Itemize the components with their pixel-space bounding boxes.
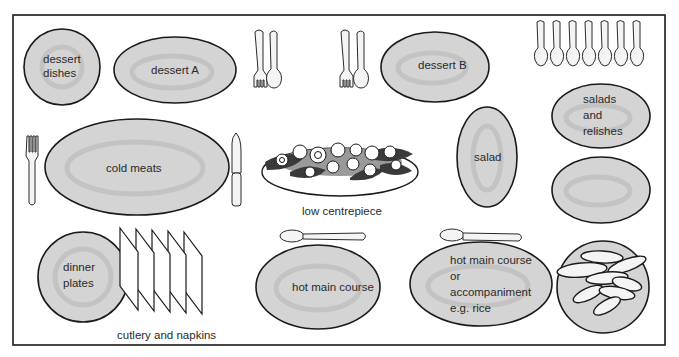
- accompaniment-label-2: or: [450, 270, 460, 282]
- dessert-a-label: dessert A: [151, 64, 199, 76]
- cold-meats-platter: cold meats: [45, 119, 229, 215]
- low-centrepiece-label: low centrepiece: [302, 205, 382, 217]
- buffet-layout-diagram: dessert dishes dessert A dessert B: [0, 0, 679, 357]
- dessert-dishes-label-2: dishes: [43, 67, 76, 79]
- dinner-plates-label-2: plates: [63, 277, 94, 289]
- empty-dish: [552, 157, 650, 223]
- accompaniment-label-3: accompaniment: [450, 286, 532, 298]
- hot-main-course-platter: hot main course: [256, 245, 380, 329]
- hot-main-or-accompaniment-platter: hot main course or accompaniment e.g. ri…: [410, 242, 552, 326]
- dessert-a-platter: dessert A: [114, 37, 236, 103]
- bread-rolls-icon: [556, 241, 649, 333]
- salads-relishes-label-3: relishes: [583, 125, 623, 137]
- hot-main-course-label: hot main course: [292, 281, 374, 293]
- cold-meats-label: cold meats: [106, 162, 162, 174]
- accompaniment-label-4: e.g. rice: [450, 302, 491, 314]
- dessert-b-label: dessert B: [418, 59, 467, 71]
- dessert-dishes-label-1: dessert: [43, 53, 82, 65]
- salad-label: salad: [474, 151, 502, 163]
- cutlery-napkins-label: cutlery and napkins: [117, 329, 216, 341]
- dinner-plates-label-1: dinner: [63, 261, 95, 273]
- salad-bowl: salad: [457, 107, 517, 207]
- accompaniment-label-1: hot main course: [450, 254, 532, 266]
- dessert-b-platter: dessert B: [381, 32, 489, 102]
- salads-relishes-label-2: and: [583, 109, 602, 121]
- knife-icon: [232, 133, 241, 206]
- dessert-dishes-plate: dessert dishes: [24, 29, 100, 105]
- salads-relishes-label-1: salads: [583, 93, 616, 105]
- salads-relishes-dish: salads and relishes: [552, 84, 650, 148]
- dinner-plates: dinner plates: [38, 232, 128, 322]
